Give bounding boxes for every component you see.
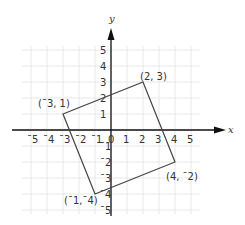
- svg-text:5: 5: [187, 134, 193, 145]
- x-axis-label: x: [228, 124, 234, 135]
- svg-text:ˉ3: ˉ3: [100, 173, 111, 184]
- svg-text:ˉ2: ˉ2: [75, 134, 86, 145]
- svg-text:1: 1: [123, 134, 129, 145]
- svg-text:4: 4: [100, 61, 106, 72]
- svg-text:2: 2: [139, 134, 145, 145]
- vertex-label-b: (2, 3): [140, 71, 167, 82]
- svg-text:ˉ3: ˉ3: [59, 134, 70, 145]
- svg-text:4: 4: [171, 134, 177, 145]
- svg-text:ˉ5: ˉ5: [100, 205, 111, 216]
- svg-text:ˉ4: ˉ4: [43, 134, 54, 145]
- svg-text:3: 3: [100, 77, 106, 88]
- svg-text:5: 5: [100, 45, 106, 56]
- svg-text:ˉ1: ˉ1: [100, 141, 111, 152]
- x-axis-arrow-icon: [214, 127, 226, 134]
- svg-text:ˉ5: ˉ5: [27, 134, 38, 145]
- svg-text:3: 3: [155, 134, 161, 145]
- coordinate-plane: x y ˉ5ˉ4ˉ3ˉ2ˉ1012345 54321ˉ1ˉ2ˉ3ˉ4ˉ5 (ˉ3…: [0, 0, 245, 225]
- svg-text:ˉ2: ˉ2: [100, 157, 111, 168]
- y-axis-label: y: [108, 13, 115, 24]
- svg-text:1: 1: [100, 109, 106, 120]
- vertex-label-c: (4, ˉ2): [166, 171, 198, 182]
- vertex-label-a: (ˉ3, 1): [38, 98, 70, 109]
- svg-text:ˉ4: ˉ4: [100, 189, 111, 200]
- vertex-label-d: (ˉ1,ˉ4): [64, 195, 98, 206]
- x-axis: [12, 127, 226, 134]
- y-axis-arrow-icon: [108, 28, 115, 40]
